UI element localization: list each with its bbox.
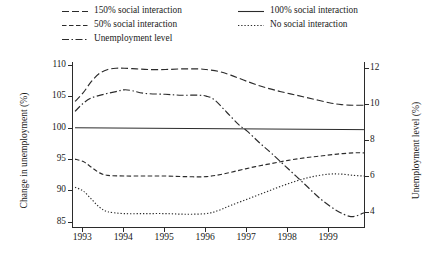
chart-legend: 150% social interaction 50% social inter… bbox=[62, 4, 402, 52]
y-axis-right-title: Unemployment level (%) bbox=[410, 66, 421, 236]
legend-swatch-dotted bbox=[238, 21, 264, 30]
y-axis-left-tick-label: 110 bbox=[52, 60, 66, 69]
legend-item: 50% social interaction bbox=[62, 20, 177, 30]
y-axis-left-ticks: 859095100105110 bbox=[30, 0, 66, 262]
x-axis-tick-label: 1999 bbox=[319, 232, 338, 242]
tick-mark bbox=[365, 212, 369, 213]
tick-mark bbox=[205, 228, 206, 232]
x-axis-tick-label: 1995 bbox=[155, 232, 174, 242]
legend-item: 150% social interaction bbox=[62, 6, 182, 16]
y-axis-left-tick-label: 100 bbox=[52, 123, 66, 132]
tick-mark bbox=[68, 65, 72, 66]
x-axis-tick-label: 1996 bbox=[196, 232, 215, 242]
tick-mark bbox=[123, 228, 124, 232]
legend-label: 50% social interaction bbox=[94, 20, 177, 30]
series-line bbox=[75, 128, 364, 130]
y-axis-right-tick-label: 12 bbox=[370, 63, 379, 72]
plot-lines bbox=[73, 62, 366, 228]
tick-mark bbox=[365, 176, 369, 177]
y-axis-left-tick-label: 95 bbox=[57, 154, 66, 163]
tick-mark bbox=[68, 159, 72, 160]
y-axis-left-tick-label: 105 bbox=[52, 91, 66, 100]
tick-mark bbox=[365, 140, 369, 141]
tick-mark bbox=[246, 228, 247, 232]
legend-label: 100% social interaction bbox=[270, 6, 358, 16]
y-axis-right-tick-label: 4 bbox=[370, 207, 375, 216]
chart-figure: 150% social interaction 50% social inter… bbox=[0, 0, 432, 262]
tick-mark bbox=[82, 228, 83, 232]
x-axis-tick-label: 1994 bbox=[114, 232, 133, 242]
x-axis-tick-label: 1998 bbox=[278, 232, 297, 242]
legend-label: No social interaction bbox=[270, 20, 347, 30]
legend-item: No social interaction bbox=[238, 20, 347, 30]
y-axis-right-tick-label: 6 bbox=[370, 171, 375, 180]
legend-label: 150% social interaction bbox=[94, 6, 182, 16]
x-axis-ticks: 1993199419951996199719981999 bbox=[0, 232, 432, 248]
legend-item: Unemployment level bbox=[62, 34, 172, 44]
legend-item: 100% social interaction bbox=[238, 6, 358, 16]
tick-mark bbox=[68, 222, 72, 223]
y-axis-right-tick-label: 8 bbox=[370, 135, 375, 144]
tick-mark bbox=[68, 190, 72, 191]
legend-swatch-solid bbox=[238, 7, 264, 16]
y-axis-right-tick-label: 10 bbox=[370, 99, 379, 108]
tick-mark bbox=[287, 228, 288, 232]
tick-mark bbox=[68, 128, 72, 129]
tick-mark bbox=[68, 96, 72, 97]
y-axis-left-title: Change in unemployment (%) bbox=[18, 66, 29, 236]
tick-mark bbox=[328, 228, 329, 232]
x-axis-tick-label: 1993 bbox=[73, 232, 92, 242]
legend-label: Unemployment level bbox=[94, 34, 172, 44]
series-line bbox=[75, 68, 364, 105]
x-axis-tick-label: 1997 bbox=[237, 232, 256, 242]
y-axis-right-ticks: 4681012 bbox=[370, 0, 400, 262]
tick-mark bbox=[365, 104, 369, 105]
series-line bbox=[75, 174, 364, 214]
series-line bbox=[75, 153, 364, 177]
y-axis-left-tick-label: 90 bbox=[57, 185, 66, 194]
series-line bbox=[75, 90, 364, 217]
tick-mark bbox=[164, 228, 165, 232]
y-axis-left-tick-label: 85 bbox=[57, 217, 66, 226]
plot-area bbox=[72, 62, 365, 228]
tick-mark bbox=[365, 68, 369, 69]
